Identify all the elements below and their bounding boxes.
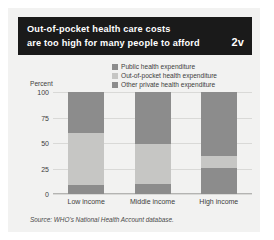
- legend-swatch-icon: [112, 64, 118, 70]
- figure-header: Out-of-pocket health care costs are too …: [18, 17, 252, 55]
- chart-legend: Public health expenditureOut-of-pocket h…: [112, 63, 252, 90]
- figure-number-badge: 2v: [232, 36, 244, 48]
- y-axis-tick-label: 0: [45, 191, 49, 198]
- legend-swatch-icon: [112, 73, 118, 79]
- figure-panel: Out-of-pocket health care costs are too …: [8, 8, 260, 232]
- bar-segment: [135, 144, 171, 184]
- bar-segment: [68, 92, 104, 133]
- x-axis-tick-label: Low income: [53, 198, 119, 205]
- title-line-1: Out-of-pocket health care costs: [27, 22, 207, 36]
- page-title: Out-of-pocket health care costs are too …: [27, 22, 207, 50]
- y-axis-tick-label: 75: [41, 114, 49, 121]
- legend-item-label: Other private health expenditure: [121, 81, 215, 89]
- bar-segment: [68, 185, 104, 194]
- plot-area: 0255075100Low incomeMiddle incomeHigh in…: [53, 92, 252, 194]
- legend-item: Public health expenditure: [112, 63, 252, 71]
- bar-segment: [68, 133, 104, 185]
- gridline: [53, 194, 252, 195]
- legend-item: Other private health expenditure: [112, 81, 252, 89]
- legend-item-label: Public health expenditure: [121, 63, 195, 71]
- title-line-2: are too high for many people to afford: [27, 36, 207, 50]
- y-axis-tick-label: 25: [41, 165, 49, 172]
- bar-stack: [201, 92, 237, 194]
- x-axis-tick-label: High income: [186, 198, 252, 205]
- bar-segment: [201, 168, 237, 194]
- bar-segment: [201, 156, 237, 168]
- bar-stack: [68, 92, 104, 194]
- y-axis-label: Percent: [30, 80, 53, 87]
- legend-swatch-icon: [112, 82, 118, 88]
- legend-item: Out-of-pocket health expenditure: [112, 72, 252, 80]
- bar-stack: [135, 92, 171, 194]
- x-axis-tick-label: Middle income: [119, 198, 185, 205]
- source-note: Source: WHO's National Health Account da…: [30, 216, 174, 223]
- bar-segment: [135, 184, 171, 194]
- y-axis-tick-label: 50: [41, 140, 49, 147]
- y-axis-tick-label: 100: [37, 89, 49, 96]
- legend-item-label: Out-of-pocket health expenditure: [121, 72, 217, 80]
- bar-segment: [135, 92, 171, 144]
- bar-segment: [201, 92, 237, 156]
